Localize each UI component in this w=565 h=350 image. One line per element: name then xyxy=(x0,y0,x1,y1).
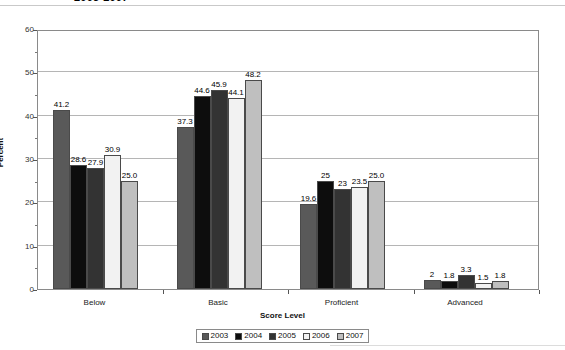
legend-item-2003[interactable]: 2003 xyxy=(202,332,229,340)
legend-swatch-icon xyxy=(202,333,209,340)
bar-value-label: 30.9 xyxy=(98,145,128,154)
legend-label: 2007 xyxy=(346,332,364,340)
chart-legend: 20032004200520062007 xyxy=(196,329,370,343)
y-tick-label: 40 xyxy=(10,113,34,121)
bar-2003-advanced[interactable] xyxy=(424,280,441,289)
bar-2003-below[interactable] xyxy=(53,110,70,289)
bar-2007-below[interactable] xyxy=(121,181,138,289)
bar-2007-advanced[interactable] xyxy=(492,281,509,289)
y-tick-label: 30 xyxy=(10,156,34,164)
bar-value-label: 1.8 xyxy=(485,271,515,280)
y-tick-label: 20 xyxy=(10,199,34,207)
bar-2004-proficient[interactable] xyxy=(317,181,334,289)
x-category-label-below: Below xyxy=(50,298,140,307)
bar-2005-basic[interactable] xyxy=(211,90,228,289)
legend-label: 2004 xyxy=(244,332,262,340)
x-category-label-basic: Basic xyxy=(173,298,263,307)
bar-2003-basic[interactable] xyxy=(177,127,194,289)
bar-group: 41.228.627.930.925.0 xyxy=(53,31,138,289)
bar-2006-advanced[interactable] xyxy=(475,283,492,290)
y-tick-label: 0 xyxy=(10,286,34,294)
bar-value-label: 25.0 xyxy=(115,171,145,180)
legend-label: 2005 xyxy=(278,332,296,340)
y-tick-label: 50 xyxy=(10,69,34,77)
x-tick-mark xyxy=(288,290,289,294)
x-tick-mark xyxy=(414,290,415,294)
plot-area: 41.228.627.930.925.037.344.645.944.148.2… xyxy=(37,30,539,290)
bar-2003-proficient[interactable] xyxy=(300,204,317,289)
y-tick-mark xyxy=(33,290,37,291)
bar-value-label: 41.2 xyxy=(47,100,77,109)
page-edge-rule xyxy=(330,345,565,346)
legend-swatch-icon xyxy=(235,333,242,340)
bar-2004-advanced[interactable] xyxy=(441,281,458,289)
bar-2004-below[interactable] xyxy=(70,165,87,289)
x-tick-mark xyxy=(163,290,164,294)
bar-2006-basic[interactable] xyxy=(228,98,245,289)
y-axis-title: Percent xyxy=(0,138,5,167)
legend-item-2006[interactable]: 2006 xyxy=(303,332,330,340)
legend-item-2007[interactable]: 2007 xyxy=(337,332,364,340)
bar-2005-below[interactable] xyxy=(87,168,104,289)
y-tick-label: 60 xyxy=(10,26,34,34)
bar-2004-basic[interactable] xyxy=(194,96,211,289)
title-divider xyxy=(0,5,565,6)
bar-value-label: 48.2 xyxy=(238,70,268,79)
legend-swatch-icon xyxy=(303,333,310,340)
x-category-label-proficient: Proficient xyxy=(297,298,387,307)
x-category-label-advanced: Advanced xyxy=(420,298,510,307)
legend-swatch-icon xyxy=(269,333,276,340)
bar-value-label: 25.0 xyxy=(362,171,392,180)
chart-title: 2003-2007 xyxy=(74,0,128,3)
x-tick-mark xyxy=(539,290,540,294)
bar-value-label: 25 xyxy=(311,171,341,180)
legend-label: 2003 xyxy=(211,332,229,340)
y-tick-label: 10 xyxy=(10,243,34,251)
bar-group: 19.6252323.525.0 xyxy=(300,31,385,289)
legend-label: 2006 xyxy=(312,332,330,340)
bar-group: 37.344.645.944.148.2 xyxy=(177,31,262,289)
bar-2007-proficient[interactable] xyxy=(368,181,385,289)
legend-item-2004[interactable]: 2004 xyxy=(235,332,262,340)
legend-swatch-icon xyxy=(337,333,344,340)
bar-2007-basic[interactable] xyxy=(245,80,262,289)
x-axis-title: Score Level xyxy=(0,311,565,320)
bar-group: 21.83.31.51.8 xyxy=(424,31,509,289)
bar-2005-proficient[interactable] xyxy=(334,189,351,289)
legend-item-2005[interactable]: 2005 xyxy=(269,332,296,340)
bar-2006-proficient[interactable] xyxy=(351,187,368,289)
